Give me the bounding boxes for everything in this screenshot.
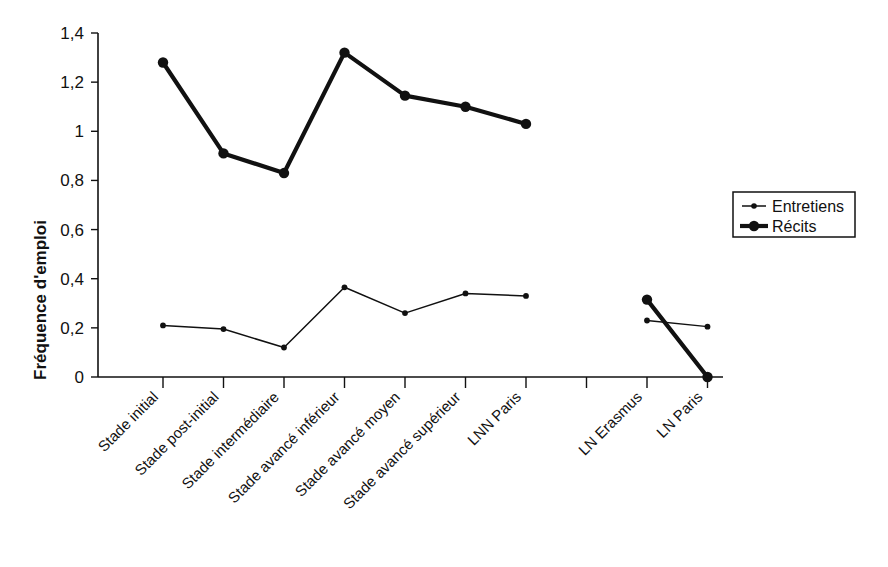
data-point-marker xyxy=(160,323,166,329)
data-point-marker xyxy=(339,47,349,57)
data-point-marker xyxy=(521,119,531,129)
x-axis-ticks xyxy=(163,377,708,388)
data-point-marker xyxy=(642,294,652,304)
legend-marker-small-dot-icon xyxy=(751,203,757,209)
data-point-marker xyxy=(400,90,410,100)
data-point-marker xyxy=(460,102,470,112)
y-tick-label: 1,4 xyxy=(60,24,84,43)
chart-container: Fréquence d'emploi 00,20,40,60,811,21,4 … xyxy=(0,0,888,567)
x-axis-label: Stade avancé inférieur xyxy=(224,388,342,506)
data-point-marker xyxy=(463,291,469,297)
data-point-marker xyxy=(402,310,408,316)
y-axis-title-text: Fréquence d'emploi xyxy=(31,220,50,380)
series-line xyxy=(647,300,708,377)
x-axis-label: Stade avancé moyen xyxy=(291,388,403,500)
y-tick-label: 0,8 xyxy=(60,171,84,190)
series-line xyxy=(647,320,708,326)
series-line xyxy=(163,287,526,347)
legend-label-entretiens: Entretiens xyxy=(772,198,844,215)
data-point-marker xyxy=(281,345,287,351)
y-tick-label: 0,2 xyxy=(60,319,84,338)
line-chart: Fréquence d'emploi 00,20,40,60,811,21,4 … xyxy=(0,0,888,567)
data-point-marker xyxy=(705,324,711,330)
y-axis: 00,20,40,60,811,21,4 xyxy=(60,24,98,387)
series-entretiens xyxy=(160,284,710,350)
data-point-marker xyxy=(221,326,227,332)
x-axis-label: LN Paris xyxy=(653,388,706,441)
legend-marker-large-dot-icon xyxy=(749,221,759,231)
x-axis-label: LN Erasmus xyxy=(575,388,645,458)
y-tick-label: 0,4 xyxy=(60,270,84,289)
x-axis-category-labels: Stade initialStade post-initialStade int… xyxy=(94,388,705,512)
series-line xyxy=(163,53,526,173)
data-point-marker xyxy=(279,168,289,178)
y-tick-label: 0,6 xyxy=(60,221,84,240)
data-point-marker xyxy=(218,148,228,158)
legend-label-recits: Récits xyxy=(772,218,816,235)
data-point-marker xyxy=(644,318,650,324)
x-axis-label: Stade initial xyxy=(94,388,161,455)
data-point-marker xyxy=(158,57,168,67)
data-point-marker xyxy=(702,372,712,382)
y-tick-label: 1,2 xyxy=(60,73,84,92)
legend: Entretiens Récits xyxy=(733,192,855,237)
y-tick-label: 0 xyxy=(75,368,84,387)
data-series-group xyxy=(158,47,713,382)
x-axis-label: Stade avancé supérieur xyxy=(340,388,464,512)
y-tick-label: 1 xyxy=(75,122,84,141)
x-axis-label: LNN Paris xyxy=(464,388,524,448)
y-axis-title: Fréquence d'emploi xyxy=(31,220,50,380)
series-récits xyxy=(158,47,713,382)
data-point-marker xyxy=(523,293,529,299)
data-point-marker xyxy=(342,284,348,290)
